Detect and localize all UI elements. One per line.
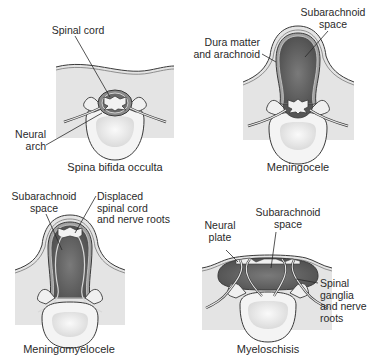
- spina-bifida-diagram: Spinal cord Neural arch Spina bifida occ…: [0, 0, 370, 361]
- label-spinal-cord: Spinal cord: [48, 25, 108, 37]
- label-neural-plate: Neural plate: [198, 220, 242, 243]
- label-subarachnoid-space: Subarachnoid space: [297, 7, 369, 30]
- caption-myeloschisis: Myeloschisis: [226, 344, 310, 356]
- label-subarachnoid-space: Subarachnoid space: [6, 191, 82, 214]
- caption-meningomyelocele: Meningomyelocele: [14, 344, 124, 356]
- label-spinal-ganglia-nerve-roots: Spinal ganglia and nerve roots: [320, 278, 370, 324]
- label-dura-matter-arachnoid: Dura matter and arachnoid: [182, 37, 260, 60]
- label-displaced-spinal-cord: Displaced spinal cord and nerve roots: [97, 191, 187, 226]
- label-neural-arch: Neural arch: [8, 129, 46, 152]
- label-subarachnoid-space: Subarachnoid space: [250, 207, 326, 230]
- panel-spina-bifida-occulta: [46, 36, 174, 160]
- caption-meningocele: Meningocele: [258, 162, 338, 174]
- caption-spina-bifida-occulta: Spina bifida occulta: [55, 162, 175, 174]
- panel-myeloschisis: [202, 232, 332, 342]
